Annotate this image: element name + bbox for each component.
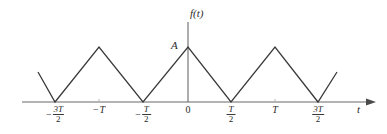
- tick-fraction: 3T2: [53, 105, 65, 125]
- tick-fraction: T2: [227, 105, 236, 125]
- amplitude-label: A: [171, 40, 178, 51]
- fraction-denominator: 2: [315, 115, 322, 124]
- x-tick-label: T2: [227, 105, 236, 125]
- fraction-numerator: 3T: [53, 105, 65, 114]
- tick-minus-sign: −: [46, 110, 52, 120]
- x-tick-label: T: [272, 105, 278, 115]
- fraction-numerator: 3T: [312, 105, 324, 114]
- tick-fraction: T2: [142, 105, 151, 125]
- y-axis-label: f(t): [190, 8, 203, 19]
- tick-value: T: [272, 105, 278, 115]
- x-tick-label: 0: [186, 105, 191, 115]
- x-tick-label: −T: [93, 105, 105, 115]
- x-tick-label: −T2: [135, 105, 151, 125]
- x-tick-label: 3T2: [312, 105, 324, 125]
- fraction-denominator: 2: [55, 115, 62, 124]
- fraction-numerator: T: [143, 105, 150, 114]
- fraction-numerator: T: [227, 105, 234, 114]
- triangular-waveform-figure: f(t) t A −3T2−T−T20T2T3T2: [0, 0, 387, 134]
- x-axis-arrowhead: [366, 99, 376, 106]
- x-axis-label: t: [357, 104, 360, 115]
- tick-minus-sign: −: [135, 110, 141, 120]
- fraction-denominator: 2: [228, 115, 235, 124]
- tick-value: T: [100, 105, 106, 115]
- x-tick-label: −3T2: [46, 105, 64, 125]
- tick-minus-sign: −: [93, 105, 99, 115]
- tick-fraction: 3T2: [312, 105, 324, 125]
- origin-label: 0: [186, 105, 191, 115]
- fraction-denominator: 2: [143, 115, 150, 124]
